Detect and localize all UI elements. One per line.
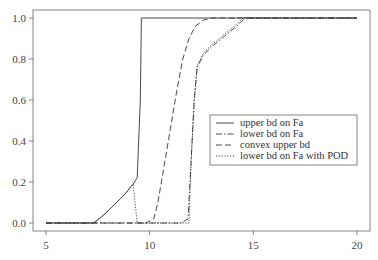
x-axis: 5101520	[43, 231, 363, 251]
y-tick-label: 1.0	[12, 12, 26, 24]
y-tick-label: 0.4	[12, 135, 26, 147]
y-tick-label: 0.8	[12, 53, 26, 65]
legend-label: convex upper bd	[240, 139, 311, 150]
y-tick-label: 0.0	[12, 217, 26, 229]
legend-label: lower bd on Fa with POD	[240, 150, 349, 161]
cdf-bounds-chart: 0.00.20.40.60.81.0 5101520 upper bd on F…	[0, 0, 378, 260]
x-tick-label: 20	[351, 239, 363, 251]
x-tick-label: 15	[248, 239, 260, 251]
legend-label: upper bd on Fa	[240, 117, 304, 128]
x-tick-label: 5	[43, 239, 49, 251]
legend: upper bd on Falower bd on Faconvex upper…	[210, 115, 357, 165]
y-tick-label: 0.6	[12, 94, 26, 106]
y-axis: 0.00.20.40.60.81.0	[12, 12, 33, 229]
y-tick-label: 0.2	[12, 176, 26, 188]
legend-label: lower bd on Fa	[240, 128, 304, 139]
x-tick-label: 10	[144, 239, 156, 251]
